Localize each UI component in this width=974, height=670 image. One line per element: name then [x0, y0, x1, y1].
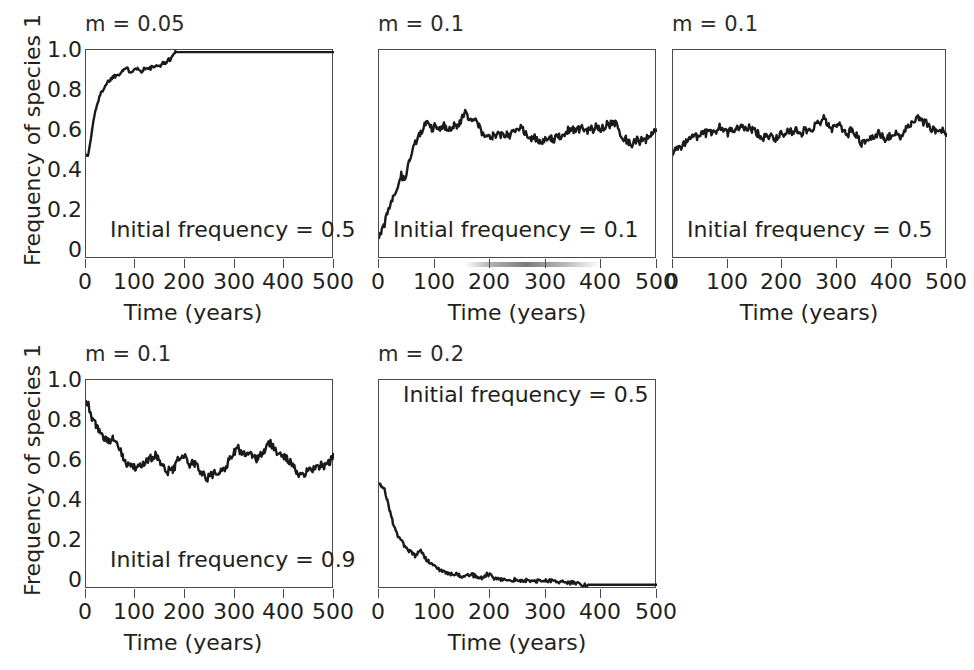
x-tick-mark	[489, 589, 490, 598]
y-tick-label: 1.0	[34, 369, 82, 391]
panel-1: m = 0.05 Frequency of species 1 1.0 0.8 …	[18, 14, 358, 326]
x-tick-label: 100	[409, 271, 459, 293]
x-tick-label: 200	[159, 601, 209, 623]
x-axis-title: Time (years)	[437, 302, 597, 324]
x-tick-mark	[545, 589, 546, 598]
x-tick-label: 100	[109, 271, 159, 293]
series-line-panel-5	[379, 380, 657, 589]
x-tick-label: 300	[520, 601, 570, 623]
x-tick-label: 300	[209, 271, 259, 293]
x-axis-title: Time (years)	[113, 302, 273, 324]
x-tick-label: 500	[308, 271, 358, 293]
x-tick-mark	[672, 259, 673, 268]
panel-title: m = 0.05	[85, 14, 185, 35]
x-tick-mark	[85, 589, 86, 598]
x-tick-label: 200	[159, 271, 209, 293]
panel-4: m = 0.1 Frequency of species 1 1.0 0.8 0…	[18, 344, 358, 656]
y-tick-label: 0	[34, 569, 82, 591]
y-tick-label: 0.2	[34, 199, 82, 221]
y-tick-label: 0.4	[34, 159, 82, 181]
x-tick-label: 0	[65, 271, 105, 293]
x-tick-label: 200	[464, 271, 514, 293]
panel-title: m = 0.1	[378, 14, 464, 35]
x-tick-label: 100	[409, 601, 459, 623]
panel-title: m = 0.2	[378, 344, 464, 365]
panel-title: m = 0.1	[85, 344, 171, 365]
scan-artifact-band	[465, 262, 600, 267]
panel-title: m = 0.1	[672, 14, 758, 35]
x-tick-label: 0	[652, 271, 692, 293]
x-tick-mark	[656, 589, 657, 598]
y-tick-label: 0	[34, 239, 82, 261]
x-tick-mark	[434, 589, 435, 598]
y-tick-label: 0.6	[34, 119, 82, 141]
x-tick-mark	[781, 259, 782, 268]
x-tick-mark	[234, 589, 235, 598]
x-tick-mark	[378, 259, 379, 268]
y-tick-label: 0.4	[34, 489, 82, 511]
x-tick-label: 0	[65, 601, 105, 623]
panel-3: m = 0.1 Initial frequency = 0.5 0 100 20…	[654, 14, 954, 326]
x-tick-label: 400	[575, 601, 625, 623]
x-tick-mark	[434, 259, 435, 268]
panel-annotation: Initial frequency = 0.9	[110, 549, 356, 571]
x-tick-mark	[184, 259, 185, 268]
panel-annotation: Initial frequency = 0.5	[110, 219, 356, 241]
y-tick-label: 1.0	[34, 39, 82, 61]
panel-2: m = 0.1 Initial frequency = 0.1 0 100 20…	[360, 14, 660, 326]
x-tick-label: 400	[575, 271, 625, 293]
x-tick-mark	[727, 259, 728, 268]
x-tick-mark	[134, 259, 135, 268]
x-tick-mark	[600, 259, 601, 268]
x-tick-mark	[600, 589, 601, 598]
y-tick-label: 0.8	[34, 79, 82, 101]
y-tick-label: 0.8	[34, 409, 82, 431]
x-tick-label: 100	[109, 601, 159, 623]
panel-annotation: Initial frequency = 0.1	[393, 219, 639, 241]
x-tick-label: 200	[464, 601, 514, 623]
x-axis-title: Time (years)	[729, 302, 889, 324]
x-tick-mark	[184, 589, 185, 598]
x-tick-label: 300	[520, 271, 570, 293]
x-axis-title: Time (years)	[113, 632, 273, 654]
x-tick-mark	[234, 259, 235, 268]
x-tick-label: 500	[631, 601, 681, 623]
x-tick-mark	[378, 589, 379, 598]
x-tick-mark	[836, 259, 837, 268]
x-axis-title: Time (years)	[437, 632, 597, 654]
figure-multi-panel-timeseries: m = 0.05 Frequency of species 1 1.0 0.8 …	[0, 0, 974, 670]
x-tick-mark	[545, 259, 546, 268]
x-tick-label: 500	[921, 271, 971, 293]
x-tick-mark	[283, 589, 284, 598]
x-tick-mark	[333, 259, 334, 268]
x-tick-label: 200	[756, 271, 806, 293]
x-tick-label: 400	[866, 271, 916, 293]
y-tick-label: 0.2	[34, 529, 82, 551]
panel-annotation: Initial frequency = 0.5	[687, 219, 933, 241]
x-tick-mark	[333, 589, 334, 598]
y-tick-label: 0.6	[34, 449, 82, 471]
x-tick-label: 0	[358, 271, 398, 293]
x-tick-mark	[85, 259, 86, 268]
x-tick-label: 300	[811, 271, 861, 293]
x-tick-label: 0	[358, 601, 398, 623]
x-tick-label: 500	[308, 601, 358, 623]
x-tick-mark	[489, 259, 490, 268]
x-tick-mark	[946, 259, 947, 268]
panel-5: m = 0.2 Initial frequency = 0.5 0 100 20…	[360, 344, 660, 656]
x-tick-label: 300	[209, 601, 259, 623]
panel-annotation: Initial frequency = 0.5	[403, 384, 649, 406]
x-tick-mark	[283, 259, 284, 268]
x-tick-label: 100	[702, 271, 752, 293]
x-tick-label: 400	[258, 271, 308, 293]
plot-area	[378, 379, 656, 588]
x-tick-mark	[134, 589, 135, 598]
x-tick-mark	[891, 259, 892, 268]
x-tick-label: 400	[258, 601, 308, 623]
